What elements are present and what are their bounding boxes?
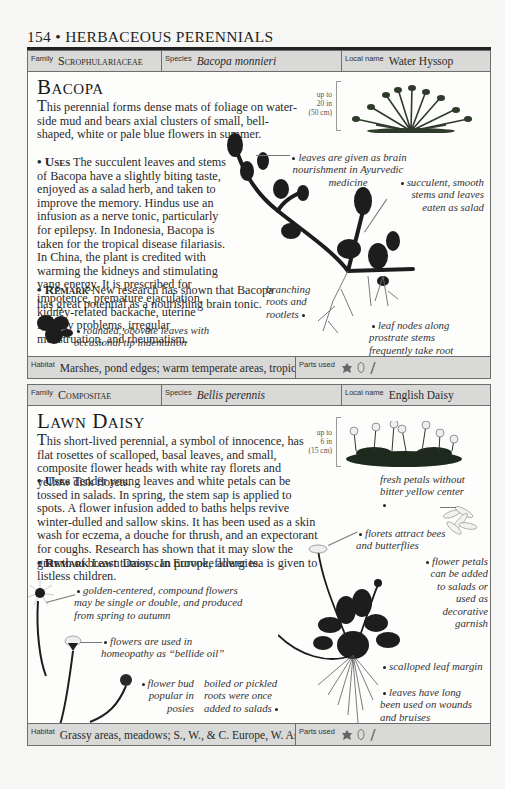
annotation: flower petals can be added to salads or … — [420, 555, 488, 629]
species-label: Species — [165, 388, 192, 397]
family-label: Family — [31, 388, 53, 397]
annotation-text: fresh petals without bitter yellow cente… — [380, 473, 465, 497]
parts-used-cell: Parts used — [296, 357, 490, 378]
annotation: scalloped leaf margin — [380, 660, 490, 672]
annotation-leader — [80, 642, 102, 643]
species-value: Bacopa monnieri — [197, 55, 277, 67]
annotation-text: flower bud popular in posies — [148, 677, 195, 714]
local-name-cell: Local name English Daisy — [342, 385, 490, 405]
bacopa-habit-illustration — [346, 85, 476, 133]
habitat-bar: Habitat Marshes, pond edges; warm temper… — [28, 356, 490, 378]
uses-label: Uses — [45, 154, 70, 169]
local-name-value: English Daisy — [389, 389, 454, 401]
annotation-leader — [440, 507, 456, 508]
habitat-value: Marshes, pond edges; warm temperate area… — [60, 362, 296, 374]
annotation: rounded, obovate leaves with occasional … — [74, 324, 234, 349]
remark-label: Remark — [45, 555, 89, 570]
annotation-text: golden-centered, compound flowers may be… — [74, 584, 242, 621]
annotation-text: succulent, smooth stems and leaves eaten… — [407, 176, 484, 213]
stem-icon — [370, 729, 376, 741]
species-cell: Species Bellis perennis — [162, 385, 342, 405]
local-name-label: Local name — [345, 54, 384, 63]
flower-icon — [357, 729, 365, 740]
habitat-label: Habitat — [31, 727, 55, 736]
family-cell: Family Compositae — [28, 385, 162, 405]
scale-line: (15 cm) — [300, 447, 332, 456]
entry-card-lawn-daisy: Family Compositae Species Bellis perenni… — [27, 384, 491, 746]
annotation-text: leaf nodes along prostrate stems frequen… — [369, 319, 453, 356]
family-value: Compositae — [58, 388, 111, 403]
drop-initial: T — [37, 431, 47, 448]
daisy-flower-side-illustration — [56, 635, 86, 735]
local-name-label: Local name — [345, 388, 384, 397]
annotation-text: florets attract bees and butterflies — [356, 527, 446, 551]
scale-bracket — [336, 81, 341, 131]
height-scale: up to 20 in (50 cm) — [300, 91, 332, 117]
annotation: flowers are used in homeopathy as “belli… — [101, 635, 241, 660]
parts-used-label: Parts used — [299, 360, 335, 369]
running-head: 154 • HERBACEOUS PERENNIALS — [27, 28, 273, 46]
bacopa-leaf-illustration — [34, 309, 74, 349]
annotation: leaves have long been used on wounds and… — [380, 686, 480, 723]
drop-initial: T — [37, 97, 47, 114]
stem-icon — [370, 362, 376, 374]
height-scale: up to 6 in (15 cm) — [300, 429, 332, 455]
habitat-bar: Habitat Grassy areas, meadows; S., W., &… — [28, 723, 490, 745]
leaf-icon — [342, 363, 352, 373]
habitat-cell: Habitat Marshes, pond edges; warm temper… — [28, 357, 296, 378]
habitat-label: Habitat — [31, 360, 55, 369]
annotation: succulent, smooth stems and leaves eaten… — [388, 176, 484, 213]
annotation-text: leaves have long been used on wounds and… — [380, 686, 472, 723]
classification-bar: Family Scrophulariaceae Species Bacopa m… — [28, 51, 490, 72]
annotation-text: rounded, obovate leaves with occasional … — [74, 324, 209, 348]
daisy-flower-illustration — [28, 581, 58, 681]
habitat-cell: Habitat Grassy areas, meadows; S., W., &… — [28, 724, 296, 745]
scale-line: (50 cm) — [300, 109, 332, 118]
flower-icon — [357, 362, 365, 373]
annotation: flower bud popular in posies — [136, 677, 194, 714]
family-value: Scrophulariaceae — [58, 54, 142, 69]
species-cell: Species Bacopa monnieri — [162, 51, 342, 71]
annotation: branching roots and rootlets — [266, 283, 320, 320]
flower-bud-illustration — [88, 670, 138, 730]
annotation-leader — [256, 155, 290, 156]
entry-title: Lawn Daisy — [37, 409, 145, 434]
annotation: florets attract bees and butterflies — [356, 527, 451, 552]
local-name-cell: Local name Water Hyssop — [342, 51, 490, 71]
species-label: Species — [165, 54, 192, 63]
annotation: leaf nodes along prostrate stems frequen… — [369, 319, 474, 356]
species-value: Bellis perennis — [197, 389, 265, 401]
family-cell: Family Scrophulariaceae — [28, 51, 162, 71]
annotation: fresh petals without bitter yellow cente… — [380, 473, 465, 510]
annotation-text: boiled or pickled roots were once added … — [204, 677, 277, 714]
annotation: boiled or pickled roots were once added … — [204, 677, 292, 714]
lawn-daisy-habit-illustration — [344, 421, 464, 467]
annotation-text: scalloped leaf margin — [389, 660, 483, 672]
remark-label: Remark — [45, 282, 89, 297]
scale-bracket — [336, 417, 341, 467]
classification-bar: Family Compositae Species Bellis perenni… — [28, 385, 490, 406]
annotation-text: flowers are used in homeopathy as “belli… — [101, 635, 224, 659]
family-label: Family — [31, 54, 53, 63]
uses-label: Uses — [45, 473, 70, 488]
entry-card-bacopa: Family Scrophulariaceae Species Bacopa m… — [27, 50, 491, 379]
local-name-value: Water Hyssop — [389, 55, 454, 67]
parts-used-label: Parts used — [299, 727, 335, 736]
annotation-text: flower petals can be added to salads or … — [430, 555, 488, 629]
habitat-value: Grassy areas, meadows; S., W., & C. Euro… — [60, 729, 296, 741]
remark-paragraph: • Remark Lawn Daisy can provoke allergie… — [37, 556, 297, 571]
parts-used-cell: Parts used — [296, 724, 490, 745]
leaf-icon — [342, 730, 352, 740]
remark-text: Lawn Daisy can provoke allergies. — [92, 556, 261, 570]
annotation: golden-centered, compound flowers may be… — [74, 584, 244, 621]
